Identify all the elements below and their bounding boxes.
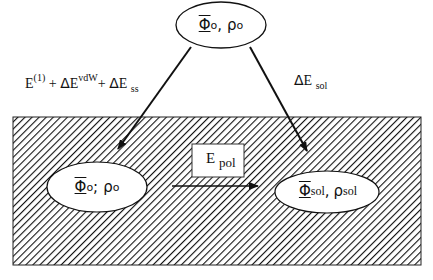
phi-symbol: Φ xyxy=(299,182,311,200)
frozen-solute-node-label: Φ o ; ρ o xyxy=(47,172,147,202)
phi-symbol: Φ xyxy=(199,16,211,34)
diagram-canvas xyxy=(0,0,433,280)
solvated-solute-node-label: Φ sol , ρ sol xyxy=(277,177,379,205)
rho-symbol: ρ xyxy=(227,16,237,34)
frozen-energy-label: E(1) + ΔEvdW+ ΔE ss xyxy=(25,72,139,94)
polarization-energy-label: E pol xyxy=(206,150,236,171)
rho-symbol: ρ xyxy=(334,182,344,200)
gas-phase-node-label: Φ o , ρ o xyxy=(176,10,266,40)
rho-symbol: ρ xyxy=(103,178,113,196)
solvation-energy-label: ΔE sol xyxy=(294,72,327,91)
phi-symbol: Φ xyxy=(75,178,87,196)
